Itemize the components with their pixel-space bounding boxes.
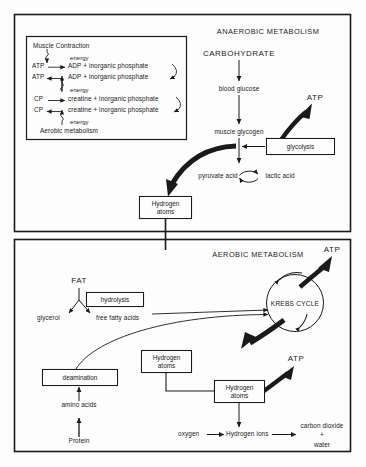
fat-label: FAT: [71, 277, 87, 285]
adp-phosphate-label-1: ADP + inorganic phosphate: [68, 63, 148, 70]
energy-squiggle-2: [61, 79, 64, 92]
aerobic-metabolism-footer: Aerobic metabolism: [40, 128, 98, 135]
cp-label-1: CP: [34, 96, 43, 103]
krebs-to-hydrogen-arrowhead: [241, 332, 256, 349]
lactic-acid-label: lactic acid: [265, 173, 294, 180]
aerobic-atp-top-label: ATP: [324, 246, 340, 254]
krebs-cycle-circle: KREBS CYCLE: [266, 274, 324, 332]
hydrogen-box1-to-box2-elbow: [166, 373, 215, 391]
energy-label-3: energy: [70, 119, 89, 125]
muscle-glycogen-label: muscle glycogen: [214, 129, 263, 136]
anaerobic-hydrogen-atoms-box: Hydrogen atoms: [139, 196, 192, 219]
energy-label-1: energy: [70, 55, 89, 61]
recycle-hook-lower: [174, 97, 181, 112]
anaerobic-panel-title: ANAEROBIC METABOLISM: [217, 28, 320, 36]
fatty-acids-to-krebs-line: [152, 310, 268, 314]
pyruvate-acid-label: pyruvate acid: [198, 173, 237, 180]
hydrogen-ions-label: Hydrogen ions: [226, 431, 269, 438]
glycolysis-atp-arrowhead: [299, 104, 312, 120]
aerobic-hydrogen-atoms-box-1: Hydrogen atoms: [141, 350, 192, 373]
plus-label: +: [320, 432, 324, 439]
aerobic-hydrogen-atoms-box-2: Hydrogen atoms: [214, 380, 265, 403]
anaerobic-atp-label: ATP: [307, 94, 323, 102]
krebs-atp-arrowhead: [318, 256, 332, 272]
carbohydrate-label: CARBOHYDRATE: [203, 50, 275, 58]
muscle-contraction-header: Muscle Contraction: [33, 43, 90, 50]
diagram-vector-layer: [0, 0, 366, 467]
adp-phosphate-label-2: ADP + inorganic phosphate: [68, 74, 148, 81]
creatine-phosphate-label-2: creatine + inorganic phosphate: [68, 107, 159, 114]
anaerobic-hydrogen-arrowhead: [166, 179, 178, 197]
protein-label: Protein: [69, 438, 90, 445]
muscle-contraction-frame: [27, 37, 187, 140]
amino-acids-label: amino acids: [61, 402, 96, 409]
energy-squiggle-3: [61, 110, 64, 125]
energy-label-2: energy: [70, 87, 89, 93]
hydrogen-atp-arrowhead: [281, 366, 294, 380]
aerobic-panel-title: AEROBIC METABOLISM: [212, 251, 303, 259]
aerobic-panel-frame: [15, 240, 351, 452]
recycle-hook-upper: [170, 64, 177, 79]
fat-fork-left: [69, 300, 79, 313]
muscle-contraction-squiggle: [46, 49, 49, 63]
carbon-dioxide-label: carbon dioxide: [301, 423, 344, 430]
metabolism-diagram: ANAEROBIC METABOLISM Muscle Contraction …: [0, 0, 366, 467]
pyruvate-to-lactate-arc: [240, 171, 259, 175]
creatine-phosphate-label-1: creatine + inorganic phosphate: [68, 96, 159, 103]
aerobic-atp-lower-label: ATP: [288, 355, 304, 363]
hydrolysis-box: hydrolysis: [86, 292, 144, 307]
lactate-to-pyruvate-arc: [240, 178, 259, 182]
glycerol-label: glycerol: [37, 315, 60, 322]
glycolysis-atp-thick-arrow: [281, 112, 306, 140]
hydrogen-atp-thick-arrow: [264, 373, 288, 391]
atp-label-2: ATP: [32, 74, 44, 81]
atp-label-1: ATP: [32, 63, 44, 70]
glycolysis-box: glycolysis: [266, 138, 335, 155]
deamination-box: deamination: [42, 369, 118, 386]
free-fatty-acids-label: free fatty acids: [96, 315, 139, 322]
cp-label-2: CP: [34, 107, 43, 114]
oxygen-label: oxygen: [178, 431, 199, 438]
blood-glucose-label: blood glucose: [219, 86, 260, 93]
water-label: water: [314, 442, 330, 449]
